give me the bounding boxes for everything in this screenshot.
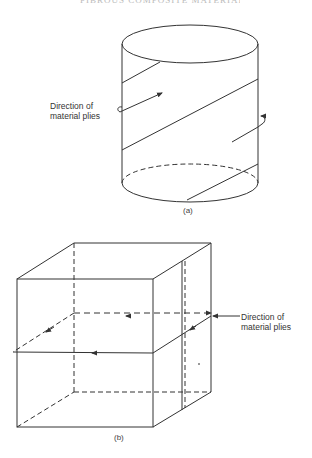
ply-line-1: [122, 62, 160, 83]
ply-arrow-right: [232, 127, 258, 142]
caption-b: (b): [114, 433, 124, 442]
annotation-a-line1: Direction of: [50, 101, 100, 111]
hidden-edge-diagonal: [17, 392, 74, 427]
cube-diagram: [13, 243, 240, 427]
annotation-b-line1: Direction of: [241, 312, 291, 322]
ply-line-2: [122, 79, 258, 150]
figure: FIBROUS COMPOSITE MATERIALS: [0, 0, 312, 458]
ply-hidden-left: [13, 313, 74, 352]
caption-a: (a): [183, 206, 193, 215]
annotation-b-line2: material plies: [241, 322, 291, 332]
cylinder-top-ellipse: [122, 25, 258, 63]
cylinder-diagram: [118, 25, 265, 202]
annotation-b: Direction of material plies: [241, 312, 291, 332]
cylinder-bottom-front: [122, 183, 258, 202]
ply-line-3: [187, 164, 258, 200]
annotation-a: Direction of material plies: [50, 101, 100, 121]
ply-arrow-right-hook: [258, 116, 265, 127]
diagram-canvas: [0, 0, 312, 458]
ply-arrow-left: [118, 93, 162, 112]
annotation-a-line2: material plies: [50, 111, 100, 121]
cylinder-bottom-back: [122, 164, 258, 183]
ply-front: [13, 352, 153, 353]
